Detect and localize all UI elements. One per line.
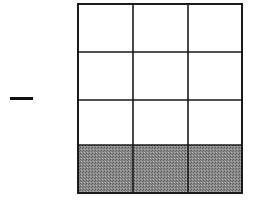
grid-svg (77, 3, 243, 194)
minus-sign (10, 97, 33, 100)
fraction-grid (77, 3, 243, 194)
shaded-row (77, 145, 243, 194)
